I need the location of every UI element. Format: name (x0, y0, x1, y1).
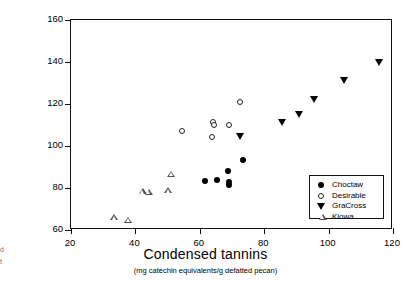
legend-item-choctaw: Choctaw (310, 180, 383, 190)
data-point-desirable (182, 131, 185, 134)
y-tick (65, 104, 71, 105)
y-tick-label: 60 (39, 224, 63, 234)
legend-item-desirable: Desirable (310, 191, 383, 201)
y-tick-label: 100 (39, 140, 63, 150)
open-circle-marker (211, 122, 217, 128)
open-circle-marker (237, 99, 243, 105)
x-tick-label: 40 (119, 238, 149, 248)
page-edge-fragment: t (0, 258, 2, 265)
x-tick-label: 120 (377, 238, 407, 248)
legend-item-gracross: GraCross (310, 201, 383, 211)
data-point-choctaw (205, 181, 208, 184)
data-point-desirable (229, 125, 232, 128)
open-triangle-up-marker (319, 214, 327, 220)
y-tick (65, 146, 71, 147)
data-point-desirable (240, 102, 243, 105)
data-point-gracross (344, 81, 348, 85)
open-circle-marker (209, 134, 215, 140)
open-triangle-up-marker (167, 171, 175, 177)
open-triangle-up-marker (110, 214, 118, 220)
x-axis-title: Condensed tannins (0, 246, 411, 262)
x-tick (264, 228, 265, 234)
y-tick (65, 188, 71, 189)
x-tick-label: 60 (184, 238, 214, 248)
legend-label: Desirable (332, 192, 366, 200)
filled-circle-marker (240, 157, 246, 163)
figure: Total phenolics (mg chlorogenic acid equ… (0, 0, 411, 289)
open-circle-marker (179, 128, 185, 134)
filled-circle-marker (202, 178, 208, 184)
filled-triangle-down-marker (310, 96, 318, 103)
page-edge-fragment: d (0, 246, 4, 253)
open-circle-marker (226, 122, 232, 128)
y-tick-label: 80 (39, 182, 63, 192)
data-point-choctaw (228, 171, 231, 174)
data-point-gracross (240, 137, 244, 141)
x-tick-label: 100 (313, 238, 343, 248)
filled-triangle-down-marker (375, 59, 383, 66)
x-tick (393, 228, 394, 234)
x-axis-subtitle: (mg catechin equivalents/g defatted peca… (0, 266, 411, 275)
filled-triangle-down-marker (340, 77, 348, 84)
filled-triangle-down-marker (278, 119, 286, 126)
data-point-gracross (282, 122, 286, 126)
filled-triangle-down-marker (295, 111, 303, 118)
y-tick-label: 120 (39, 98, 63, 108)
legend-symbol (310, 191, 332, 201)
filled-circle-marker (214, 177, 220, 183)
data-point-gracross (314, 100, 318, 104)
y-tick (65, 20, 71, 21)
y-tick-label: 160 (39, 14, 63, 24)
x-tick (329, 228, 330, 234)
y-tick (65, 62, 71, 63)
legend-item-kiowa: Kiowa (310, 212, 383, 222)
data-point-choctaw (217, 180, 220, 183)
x-tick (135, 228, 136, 234)
legend-label: Choctaw (332, 181, 363, 189)
data-point-kiowa (114, 217, 118, 220)
filled-circle-marker (318, 182, 324, 188)
filled-triangle-down-marker (236, 133, 244, 140)
open-circle-marker (318, 193, 324, 199)
data-point-kiowa (168, 190, 172, 193)
legend-label: Kiowa (332, 213, 354, 221)
open-triangle-up-marker (124, 217, 132, 223)
open-triangle-up-marker (164, 187, 172, 193)
data-point-kiowa (128, 220, 132, 223)
filled-circle-marker (225, 168, 231, 174)
x-tick (200, 228, 201, 234)
filled-circle-marker (226, 182, 232, 188)
legend-symbol (310, 180, 332, 190)
legend-symbol (310, 201, 332, 211)
legend-symbol (310, 212, 332, 222)
data-point-kiowa (171, 174, 175, 177)
data-point-gracross (299, 114, 303, 118)
data-point-choctaw (243, 160, 246, 163)
legend-label: GraCross (332, 202, 366, 210)
data-point-desirable (212, 137, 215, 140)
plot-area: ChoctawDesirableGraCrossKiowa (70, 19, 392, 229)
x-tick-label: 80 (248, 238, 278, 248)
y-tick-label: 140 (39, 56, 63, 66)
x-tick-label: 20 (55, 238, 85, 248)
data-point-desirable (214, 125, 217, 128)
legend: ChoctawDesirableGraCrossKiowa (309, 175, 384, 219)
data-point-gracross (379, 62, 383, 66)
open-triangle-up-marker (145, 189, 153, 195)
filled-triangle-down-marker (317, 203, 325, 210)
data-point-kiowa (149, 192, 153, 195)
x-tick (71, 228, 72, 234)
data-point-choctaw (229, 185, 232, 188)
